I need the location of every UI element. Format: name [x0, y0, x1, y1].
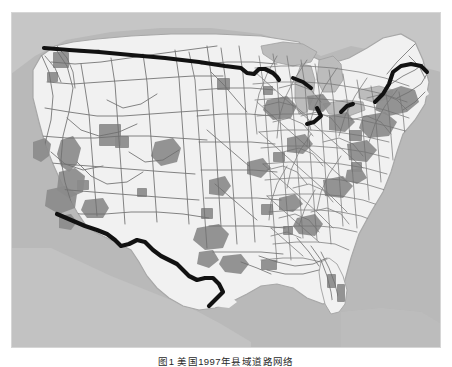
- map-image: [11, 12, 441, 348]
- figure-caption: 图1 美国1997年县域道路网络: [0, 356, 452, 367]
- map-svg: [11, 12, 441, 348]
